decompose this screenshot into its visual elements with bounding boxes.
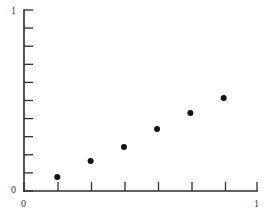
x-axis-max-label: 1 [254, 199, 259, 209]
x-axis-ticks [24, 182, 257, 191]
data-point-6 [221, 95, 227, 101]
x-axis-group [24, 182, 257, 191]
y-axis-ticks [24, 10, 33, 191]
y-axis-group [24, 10, 33, 191]
data-point-2 [88, 158, 94, 164]
x-axis-min-label: 0 [21, 199, 26, 209]
y-axis-max-label: 1 [11, 6, 16, 16]
y-axis-min-label: 0 [11, 185, 16, 195]
data-point-series [54, 95, 226, 180]
data-point-1 [54, 174, 60, 180]
plot-canvas [0, 0, 273, 219]
scatter-plot-figure: 1 0 0 1 [0, 0, 273, 219]
data-point-3 [121, 144, 127, 150]
data-point-4 [154, 126, 160, 132]
data-point-5 [187, 110, 193, 116]
